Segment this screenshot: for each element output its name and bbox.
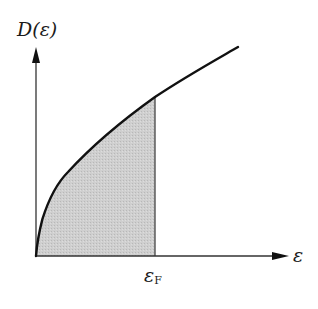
diagram-graphic <box>0 0 318 309</box>
y-axis-label: D(ε) <box>17 20 57 39</box>
occupied-states-region <box>36 97 155 256</box>
y-axis-arrow-icon <box>32 47 40 63</box>
fermi-label-base: ε <box>144 264 154 286</box>
fermi-energy-label: εF <box>144 266 162 286</box>
x-axis-arrow-icon <box>272 252 289 260</box>
dos-diagram: D(ε) ε εF <box>0 0 318 309</box>
x-axis-label: ε <box>293 246 303 265</box>
fermi-label-subscript: F <box>154 274 162 287</box>
